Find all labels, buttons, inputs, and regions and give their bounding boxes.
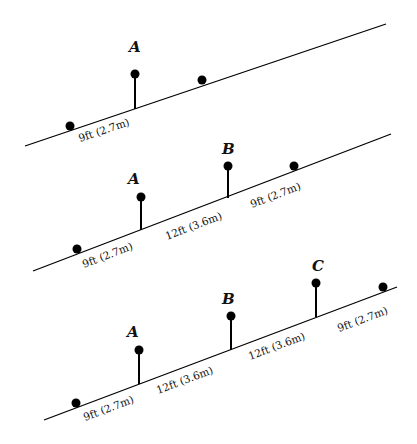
ground-line	[44, 287, 397, 420]
post-b-top	[227, 312, 236, 321]
post-a-top	[137, 193, 146, 202]
distance-label: 12ft (3.6m)	[163, 209, 223, 241]
post-label-a: A	[125, 323, 139, 341]
post-spacing-diagram: A 9ft (2.7m) A B 9ft (2.7m) 12ft (3.6m) …	[0, 0, 417, 444]
end-dot	[379, 283, 388, 292]
post-label-b: B	[221, 290, 235, 308]
panel-three-posts: A B C 9ft (2.7m) 12ft (3.6m) 12ft (3.6m)…	[44, 257, 397, 423]
distance-label: 9ft (2.7m)	[248, 180, 302, 210]
end-dot	[73, 245, 82, 254]
ground-line	[25, 24, 386, 146]
distance-label: 9ft (2.7m)	[335, 304, 389, 334]
panel-one-post: A 9ft (2.7m)	[25, 24, 386, 146]
end-dot	[290, 162, 299, 171]
distance-label: 12ft (3.6m)	[246, 330, 306, 362]
post-label-c: C	[312, 257, 324, 275]
ground-line	[33, 134, 391, 271]
end-dot	[72, 399, 81, 408]
post-a-top	[135, 346, 144, 355]
distance-label: 9ft (2.7m)	[80, 240, 134, 270]
distance-label: 12ft (3.6m)	[154, 364, 214, 396]
distance-label: 9ft (2.7m)	[81, 393, 135, 423]
post-c-top	[312, 279, 321, 288]
post-a-top	[131, 70, 140, 79]
end-dot	[66, 122, 75, 131]
panel-two-posts: A B 9ft (2.7m) 12ft (3.6m) 9ft (2.7m)	[33, 134, 391, 271]
post-label-a: A	[126, 170, 140, 188]
end-dot	[198, 76, 207, 85]
post-label-b: B	[221, 140, 235, 158]
post-b-top	[224, 162, 233, 171]
post-label-a: A	[127, 38, 141, 56]
